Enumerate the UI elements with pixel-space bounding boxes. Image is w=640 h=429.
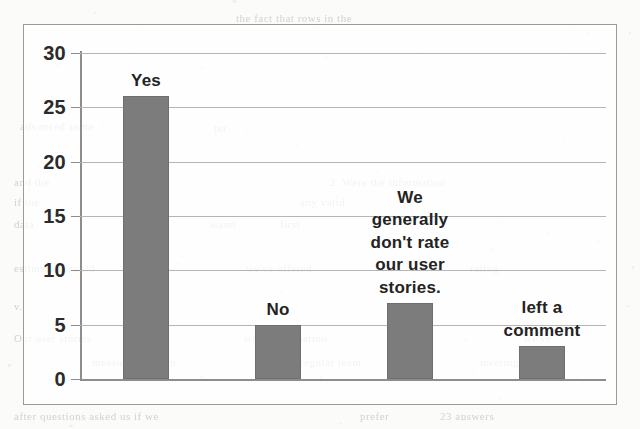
y-axis-label-10: 10 <box>43 259 66 282</box>
scan-speck <box>629 32 631 34</box>
scan-speck <box>233 0 236 3</box>
y-axis-label-20: 20 <box>43 150 66 173</box>
scan-speck <box>632 266 635 269</box>
gridline-0 <box>80 379 606 381</box>
bar-label: left a comment <box>479 297 605 342</box>
plot-area: 051015202530 YesNoWe generally don't rat… <box>80 53 606 379</box>
bar-label: We generally don't rate our user stories… <box>347 187 473 299</box>
scan-speck <box>340 423 342 425</box>
bar[interactable] <box>387 303 433 379</box>
y-axis-label-0: 0 <box>55 368 66 391</box>
bar[interactable] <box>255 325 301 379</box>
y-axis-line <box>80 51 82 379</box>
scan-speck <box>94 12 97 15</box>
y-tick-25 <box>71 107 80 108</box>
bleed-through-line: the fact that rows in the <box>236 12 352 24</box>
bleed-through-line: 23 answers <box>440 410 494 422</box>
y-tick-0 <box>71 379 80 380</box>
bar[interactable] <box>519 346 565 379</box>
bar-label: No <box>215 299 341 321</box>
y-tick-15 <box>71 216 80 217</box>
y-axis-label-25: 25 <box>43 96 66 119</box>
gridline-30 <box>80 53 606 54</box>
bleed-through-line: prefer <box>360 410 389 422</box>
bar[interactable] <box>123 96 169 379</box>
scan-speck <box>39 0 40 1</box>
y-axis-label-15: 15 <box>43 205 66 228</box>
scan-speck <box>70 425 73 428</box>
bleed-through-line: after questions asked us if we <box>14 410 159 422</box>
scan-speck <box>387 15 388 16</box>
y-axis-label-5: 5 <box>55 313 66 336</box>
y-tick-30 <box>71 53 80 54</box>
y-axis-label-30: 30 <box>43 42 66 65</box>
scan-speck <box>330 22 331 23</box>
bar-label: Yes <box>83 70 209 92</box>
y-tick-5 <box>71 325 80 326</box>
chart-frame: 051015202530 YesNoWe generally don't rat… <box>23 24 617 405</box>
scan-speck <box>8 364 11 367</box>
y-tick-10 <box>71 270 80 271</box>
bleed-through-line: v. <box>14 300 23 312</box>
y-tick-20 <box>71 162 80 163</box>
scan-speck <box>627 305 629 307</box>
